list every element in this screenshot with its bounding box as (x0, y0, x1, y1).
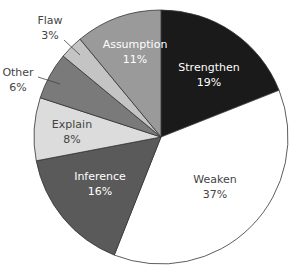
slice-label-flaw: Flaw3% (37, 14, 62, 42)
slice-label-other: Other6% (2, 66, 34, 94)
pie-chart: Strengthen19%Weaken37%Inference16%Explai… (0, 0, 295, 277)
